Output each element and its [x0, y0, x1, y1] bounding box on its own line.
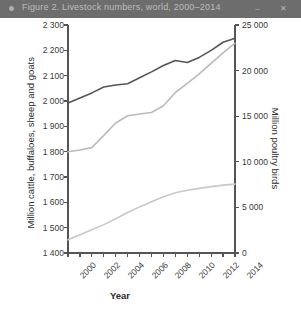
window-titlebar: Figure 2. Livestock numbers, world, 2000…	[0, 0, 301, 19]
y-axis-left-title: Million cattle, buffaloes, sheep and goa…	[25, 59, 36, 229]
minimize-button[interactable]: –	[254, 4, 261, 13]
y-axis-left-tick-label: 1 500	[14, 223, 64, 233]
y-axis-left-tick-label: 2 100	[14, 71, 64, 81]
chart-axes	[64, 25, 239, 257]
window-title: Figure 2. Livestock numbers, world, 2000…	[22, 2, 221, 12]
y-axis-left-tick-label: 2 300	[14, 20, 64, 30]
y-axis-right-tick-label: 5 000	[242, 202, 288, 212]
y-axis-right-tick-label: 15 000	[242, 111, 288, 121]
y-axis-right-tick-label: 10 000	[242, 157, 288, 167]
y-axis-left-tick-label: 2 200	[14, 45, 64, 55]
screenshot-root: Figure 2. Livestock numbers, world, 2000…	[0, 0, 301, 312]
chart-figure: 1 4001 5001 6001 7001 8001 9002 0002 100…	[0, 18, 301, 312]
y-axis-right-title: Million poultry birds	[270, 89, 281, 209]
series-line-1	[68, 43, 235, 152]
y-axis-left-tick-label: 1 800	[14, 147, 64, 157]
y-axis-left-tick-label: 2 000	[14, 96, 64, 106]
x-axis-title: Year	[0, 290, 240, 301]
chart-series	[68, 38, 235, 240]
y-axis-right-tick-label: 25 000	[242, 20, 288, 30]
close-button[interactable]: ✕	[280, 4, 287, 13]
y-axis-right-tick-label: 20 000	[242, 66, 288, 76]
y-axis-left-tick-label: 1 400	[14, 248, 64, 258]
y-axis-left-tick-label: 1 700	[14, 172, 64, 182]
y-axis-left-tick-label: 1 600	[14, 197, 64, 207]
y-axis-left-tick-label: 1 900	[14, 121, 64, 131]
series-line-0	[68, 38, 235, 103]
app-dot-icon	[9, 6, 14, 11]
series-line-2	[68, 184, 235, 240]
y-axis-right-tick-label: 0	[242, 248, 288, 258]
